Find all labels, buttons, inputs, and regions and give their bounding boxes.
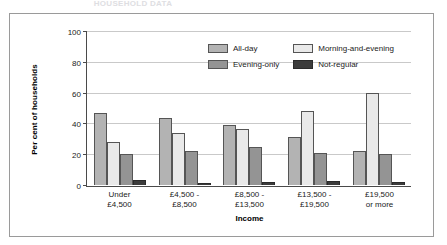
y-tick-mark: [83, 62, 87, 63]
bar[interactable]: [353, 151, 366, 185]
x-axis-tick-labels: Under£4,500£4,500 -£8,500£8,500 -£13,500…: [87, 190, 412, 210]
bar[interactable]: [262, 182, 275, 185]
bar[interactable]: [301, 111, 314, 185]
bar[interactable]: [366, 93, 379, 185]
cropped-figure-title: HOUSEHOLD DATA: [58, 0, 208, 6]
x-tick-label-line: £13,500: [217, 200, 282, 210]
x-tick-label: £8,500 -£13,500: [217, 190, 282, 210]
legend-item[interactable]: Morning-and-evening: [293, 44, 394, 53]
x-tick-label-line: £4,500: [87, 200, 152, 210]
legend-item[interactable]: Evening-only: [208, 60, 279, 69]
x-tick-label-line: Under: [87, 190, 152, 200]
bar[interactable]: [236, 129, 249, 185]
chart-canvas: Per cent of households 020406080100 Unde…: [10, 14, 435, 238]
y-tick-label: 100: [68, 28, 81, 37]
legend-label: Not-regular: [318, 60, 358, 69]
legend-swatch: [293, 44, 313, 53]
legend-item[interactable]: All-day: [208, 44, 279, 53]
x-tick-label-line: £8,500: [152, 200, 217, 210]
legend-label: Morning-and-evening: [318, 44, 394, 53]
bar[interactable]: [107, 142, 120, 185]
legend-swatch: [208, 44, 228, 53]
y-tick-mark: [83, 154, 87, 155]
y-tick-label: 40: [72, 120, 81, 129]
bar[interactable]: [172, 133, 185, 185]
y-tick-mark: [83, 31, 87, 32]
bar-group: [88, 32, 153, 185]
bar[interactable]: [379, 154, 392, 185]
legend-swatch: [293, 60, 313, 69]
y-tick-mark: [83, 185, 87, 186]
bar[interactable]: [249, 147, 262, 185]
x-tick-label: £4,500 -£8,500: [152, 190, 217, 210]
x-tick-label-line: £8,500 -: [217, 190, 282, 200]
bar[interactable]: [133, 180, 146, 185]
legend-label: All-day: [233, 44, 257, 53]
x-tick-label: Under£4,500: [87, 190, 152, 210]
bar[interactable]: [223, 125, 236, 185]
bar[interactable]: [392, 182, 405, 185]
bar[interactable]: [159, 118, 172, 185]
y-tick-mark: [83, 93, 87, 94]
bar[interactable]: [185, 151, 198, 185]
y-tick-mark: [83, 123, 87, 124]
chart-legend: All-dayMorning-and-eveningEvening-onlyNo…: [208, 44, 394, 69]
legend-label: Evening-only: [233, 60, 279, 69]
x-tick-label: £13,500 -£19,500: [282, 190, 347, 210]
x-tick-label-line: £19,500: [282, 200, 347, 210]
x-tick-label-line: £4,500 -: [152, 190, 217, 200]
y-tick-label: 80: [72, 58, 81, 67]
bar[interactable]: [288, 137, 301, 185]
x-tick-label-line: or more: [347, 200, 412, 210]
legend-swatch: [208, 60, 228, 69]
bar[interactable]: [120, 154, 133, 185]
bar[interactable]: [327, 181, 340, 185]
y-axis-title-text: Per cent of households: [30, 64, 39, 155]
bar[interactable]: [198, 183, 211, 185]
x-tick-label-line: £19,500: [347, 190, 412, 200]
y-tick-label: 20: [72, 151, 81, 160]
figure-frame: Per cent of households 020406080100 Unde…: [9, 13, 434, 237]
y-tick-label: 60: [72, 89, 81, 98]
x-tick-label: £19,500or more: [347, 190, 412, 210]
x-tick-label-line: £13,500 -: [282, 190, 347, 200]
y-axis-title: Per cent of households: [28, 32, 40, 187]
legend-item[interactable]: Not-regular: [293, 60, 394, 69]
bar[interactable]: [94, 113, 107, 185]
x-axis-title: Income: [87, 214, 412, 223]
y-tick-label: 0: [77, 182, 81, 191]
bar[interactable]: [314, 153, 327, 185]
